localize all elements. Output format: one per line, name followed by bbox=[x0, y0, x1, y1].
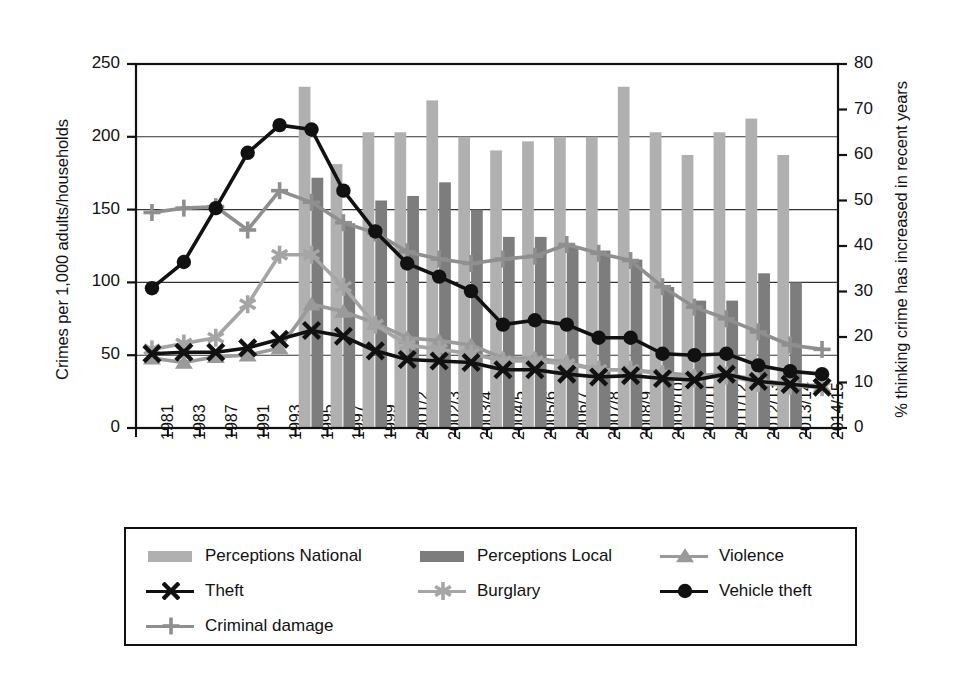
marker-asterisk bbox=[176, 339, 192, 348]
marker-triangle bbox=[334, 304, 352, 318]
marker-asterisk bbox=[144, 345, 160, 354]
marker-cross bbox=[367, 343, 383, 359]
marker-cross bbox=[495, 362, 511, 378]
legend-marker-plus-icon bbox=[162, 617, 180, 635]
legend-label: Burglary bbox=[477, 581, 540, 601]
marker-asterisk bbox=[431, 345, 447, 354]
marker-cross bbox=[176, 344, 192, 360]
x-axis-tick-label: 2001/2 bbox=[414, 391, 432, 440]
marker-circle bbox=[655, 347, 669, 361]
series-line bbox=[152, 125, 822, 374]
marker-triangle bbox=[717, 366, 735, 380]
marker-asterisk bbox=[463, 349, 479, 358]
marker-asterisk bbox=[750, 378, 766, 387]
marker-triangle bbox=[239, 348, 257, 362]
legend-swatch-icon bbox=[148, 551, 192, 562]
marker-asterisk bbox=[272, 250, 288, 259]
marker-cross bbox=[208, 344, 224, 360]
legend-item-perceptions-national[interactable]: Perceptions National bbox=[144, 539, 362, 572]
marker-cross bbox=[623, 368, 639, 384]
legend-label: Perceptions Local bbox=[477, 546, 612, 566]
legend-row: Criminal damage bbox=[126, 609, 855, 642]
marker-circle bbox=[591, 331, 605, 345]
x-axis-tick-label: 2007/8 bbox=[606, 391, 624, 440]
series-line bbox=[152, 304, 822, 386]
series-line bbox=[152, 191, 822, 350]
marker-circle bbox=[177, 255, 191, 269]
x-axis-tick-label: 1991 bbox=[255, 404, 273, 440]
marker-cross bbox=[814, 379, 830, 395]
marker-asterisk bbox=[368, 320, 384, 329]
series-criminal-damage bbox=[143, 182, 830, 358]
marker-cross bbox=[240, 340, 256, 356]
legend-label: Theft bbox=[205, 581, 244, 601]
marker-cross bbox=[335, 328, 351, 344]
y-axis-right-tick-label: 40 bbox=[854, 235, 914, 255]
bar bbox=[745, 119, 757, 428]
marker-cross bbox=[272, 331, 288, 347]
marker-cross bbox=[208, 344, 224, 360]
x-axis-tick-label: 1993 bbox=[287, 404, 305, 440]
marker-asterisk bbox=[687, 374, 703, 383]
bar bbox=[618, 87, 630, 428]
y-axis-right-tick-label: 80 bbox=[854, 53, 914, 73]
x-axis-tick-label: 2011/12 bbox=[733, 383, 751, 440]
marker-circle bbox=[496, 317, 510, 331]
marker-asterisk bbox=[495, 357, 511, 366]
legend-item-criminal-damage[interactable]: Criminal damage bbox=[144, 609, 334, 642]
legend-item-violence[interactable]: Violence bbox=[658, 539, 784, 572]
marker-asterisk bbox=[208, 333, 224, 342]
marker-asterisk bbox=[687, 374, 703, 383]
marker-triangle bbox=[398, 330, 416, 344]
y-axis-left-tick-label: 50 bbox=[46, 344, 120, 364]
marker-asterisk bbox=[208, 333, 224, 342]
marker-asterisk bbox=[304, 250, 320, 259]
marker-asterisk bbox=[272, 250, 288, 259]
marker-triangle bbox=[622, 362, 640, 376]
y-axis-left-tick-label: 100 bbox=[46, 271, 120, 291]
marker-circle bbox=[783, 364, 797, 378]
marker-circle bbox=[145, 281, 159, 295]
marker-asterisk bbox=[336, 282, 352, 291]
marker-triangle bbox=[430, 333, 448, 347]
marker-asterisk bbox=[431, 345, 447, 354]
marker-asterisk bbox=[240, 300, 256, 309]
legend-key-vehicle-theft-icon bbox=[658, 580, 710, 602]
marker-cross bbox=[527, 362, 543, 378]
legend-item-vehicle-theft[interactable]: Vehicle theft bbox=[658, 574, 812, 607]
marker-cross bbox=[591, 369, 607, 385]
marker-asterisk bbox=[527, 357, 543, 366]
bar bbox=[426, 100, 438, 428]
y-axis-right-tick-label: 50 bbox=[854, 190, 914, 210]
marker-circle bbox=[209, 201, 223, 215]
series-theft bbox=[144, 322, 830, 395]
y-axis-right-tick-label: 60 bbox=[854, 144, 914, 164]
marker-asterisk bbox=[814, 383, 830, 392]
marker-circle bbox=[464, 284, 478, 298]
marker-cross bbox=[335, 328, 351, 344]
legend-key-violence-icon bbox=[658, 545, 710, 567]
marker-asterisk bbox=[559, 359, 575, 368]
marker-cross bbox=[750, 373, 766, 389]
legend-marker-asterisk-icon bbox=[434, 582, 452, 600]
marker-triangle bbox=[526, 350, 544, 364]
legend-item-theft[interactable]: Theft bbox=[144, 574, 244, 607]
marker-cross bbox=[686, 372, 702, 388]
marker-triangle bbox=[366, 316, 384, 330]
legend-item-burglary[interactable]: Burglary bbox=[416, 574, 540, 607]
marker-cross bbox=[144, 346, 160, 362]
y-axis-left-tick-label: 0 bbox=[46, 417, 120, 437]
legend-item-perceptions-local[interactable]: Perceptions Local bbox=[416, 539, 612, 572]
x-axis-tick-label: 2005/6 bbox=[542, 391, 560, 440]
legend-row: TheftBurglaryVehicle theft bbox=[126, 574, 855, 607]
marker-cross bbox=[559, 366, 575, 382]
marker-circle bbox=[432, 269, 446, 283]
marker-cross bbox=[750, 373, 766, 389]
marker-circle bbox=[272, 118, 286, 132]
marker-triangle bbox=[685, 368, 703, 382]
y-axis-right-tick-label: 20 bbox=[854, 326, 914, 346]
marker-asterisk bbox=[814, 383, 830, 392]
marker-circle bbox=[560, 317, 574, 331]
x-axis-tick-label: 2014/15 bbox=[829, 382, 847, 440]
x-axis-tick-label: 2008/9 bbox=[638, 391, 656, 440]
